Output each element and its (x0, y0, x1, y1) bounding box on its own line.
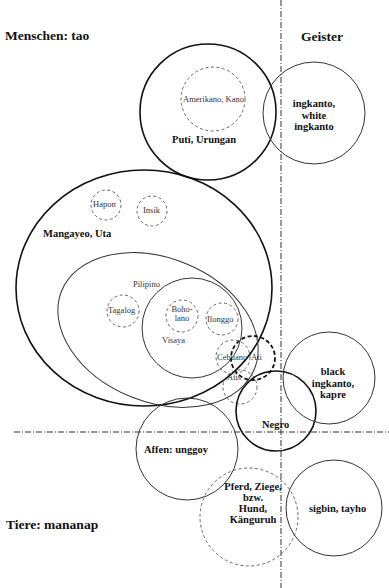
label-visaya: Visaya (162, 336, 185, 345)
label-affen: Affen: unggoy (144, 444, 208, 456)
label-ingkanto: ingkanto, white ingkanto (288, 98, 340, 133)
label-insik: Insik (143, 206, 160, 215)
label-puti: Putí, Urungan (172, 134, 236, 146)
label-pilipino: Pilipino (133, 280, 160, 289)
diagram-canvas (0, 0, 389, 588)
label-amerikano: Amerikano, Kano (183, 95, 244, 104)
label-negro: Negro (262, 419, 289, 431)
label-hapon: Hapon (93, 200, 116, 209)
label-sigbin: sigbin, tayho (309, 503, 366, 515)
label-pferd: Pferd, Ziege, bzw. Hund, Känguruh (223, 481, 283, 525)
label-tagalog: Tagalog (108, 306, 135, 315)
label-ilonggo: Ilonggo (207, 315, 233, 324)
negro-circle (236, 371, 316, 451)
label-cebuano: Cebuano (217, 353, 247, 362)
puti-circle (140, 44, 276, 180)
label-mangayeo: Mangayeo, Uta (43, 228, 111, 240)
label-ati: Ati (251, 353, 262, 362)
label-spirits: Geister (301, 30, 343, 45)
label-humans: Menschen: tao (5, 29, 89, 44)
label-black-ingkanto: black ingkanto, kapre (305, 366, 361, 401)
label-boholano: Boho- lano (170, 305, 194, 324)
label-animals: Tiere: mananap (6, 518, 98, 533)
label-atis: Atis (227, 373, 241, 382)
pilipino-ellipse (35, 224, 282, 435)
